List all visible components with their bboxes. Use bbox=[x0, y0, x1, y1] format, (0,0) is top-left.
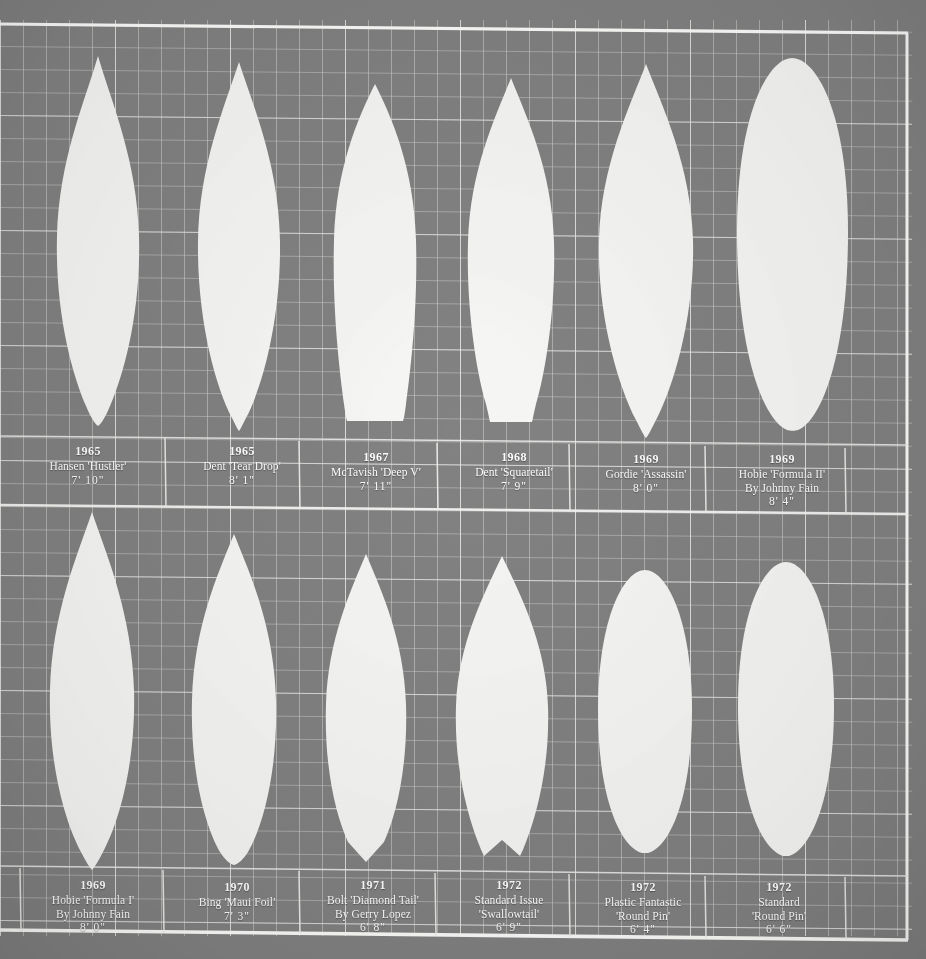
board-year: 1970 bbox=[164, 880, 310, 894]
board-length: 6' 6" bbox=[706, 923, 852, 937]
board-caption-12: 1972 Standard 'Round Pin' 6' 6" bbox=[706, 880, 852, 937]
board-shape-5[interactable] bbox=[599, 64, 693, 438]
board-year: 1969 bbox=[570, 452, 722, 466]
board-shape-8[interactable] bbox=[192, 534, 276, 865]
board-year: 1969 bbox=[20, 878, 166, 892]
board-length: 7' 11" bbox=[300, 480, 452, 494]
board-maker: By Johnny Fain bbox=[20, 908, 166, 922]
board-name: Bolt 'Diamond Tail' bbox=[300, 894, 446, 908]
board-length: 6' 8" bbox=[300, 921, 446, 935]
board-shape-7[interactable] bbox=[50, 512, 134, 870]
board-caption-4: 1968 Dent 'Squaretail' 7' 9" bbox=[438, 450, 590, 493]
board-length: 7' 3" bbox=[164, 910, 310, 924]
board-year: 1968 bbox=[438, 450, 590, 464]
board-year: 1967 bbox=[300, 450, 452, 464]
board-length: 7' 10" bbox=[12, 474, 164, 488]
board-maker: 'Swallowtail' bbox=[436, 908, 582, 922]
board-name: Hansen 'Hustler' bbox=[12, 460, 164, 474]
board-year: 1972 bbox=[436, 878, 582, 892]
board-shape-3[interactable] bbox=[334, 84, 417, 421]
board-shape-10[interactable] bbox=[456, 556, 548, 856]
board-length: 8' 1" bbox=[166, 474, 318, 488]
board-caption-3: 1967 McTavish 'Deep V' 7' 11" bbox=[300, 450, 452, 493]
board-name: Hobie 'Formula II' bbox=[706, 468, 858, 482]
board-caption-2: 1965 Dent 'Tear Drop' 8' 1" bbox=[166, 444, 318, 487]
board-shape-4[interactable] bbox=[468, 78, 554, 422]
board-shape-11[interactable] bbox=[598, 570, 692, 853]
board-length: 8' 0" bbox=[20, 921, 166, 935]
board-name: Hobie 'Formula I' bbox=[20, 894, 166, 908]
board-caption-7: 1969 Hobie 'Formula I' By Johnny Fain 8'… bbox=[20, 878, 166, 935]
board-name: Plastic Fantastic bbox=[570, 896, 716, 910]
board-year: 1965 bbox=[12, 444, 164, 458]
board-year: 1972 bbox=[570, 880, 716, 894]
board-length: 7' 9" bbox=[438, 480, 590, 494]
board-maker: 'Round Pin' bbox=[570, 910, 716, 924]
board-caption-8: 1970 Bing 'Maui Foil' 7' 3" bbox=[164, 880, 310, 923]
board-name: Dent 'Squaretail' bbox=[438, 466, 590, 480]
board-year: 1972 bbox=[706, 880, 852, 894]
board-name: Bing 'Maui Foil' bbox=[164, 896, 310, 910]
board-year: 1969 bbox=[706, 452, 858, 466]
board-caption-11: 1972 Plastic Fantastic 'Round Pin' 6' 4" bbox=[570, 880, 716, 937]
board-name: Standard Issue bbox=[436, 894, 582, 908]
board-name: McTavish 'Deep V' bbox=[300, 466, 452, 480]
board-length: 8' 0" bbox=[570, 482, 722, 496]
board-caption-9: 1971 Bolt 'Diamond Tail' By Gerry Lopez … bbox=[300, 878, 446, 935]
board-caption-5: 1969 Gordie 'Assassin' 8' 0" bbox=[570, 452, 722, 495]
board-caption-10: 1972 Standard Issue 'Swallowtail' 6' 9" bbox=[436, 878, 582, 935]
board-shape-6[interactable] bbox=[737, 58, 848, 431]
board-length: 6' 9" bbox=[436, 921, 582, 935]
board-maker: 'Round Pin' bbox=[706, 910, 852, 924]
board-maker: By Gerry Lopez bbox=[300, 908, 446, 922]
board-caption-6: 1969 Hobie 'Formula II' By Johnny Fain 8… bbox=[706, 452, 858, 509]
board-length: 8' 4" bbox=[706, 495, 858, 509]
board-shape-1[interactable] bbox=[57, 56, 139, 426]
board-name: Standard bbox=[706, 896, 852, 910]
board-shape-2[interactable] bbox=[198, 62, 280, 431]
board-name: Gordie 'Assassin' bbox=[570, 468, 722, 482]
board-shape-9[interactable] bbox=[326, 554, 406, 862]
chart-canvas: 1965 Hansen 'Hustler' 7' 10" 1965 Dent '… bbox=[0, 0, 926, 959]
board-caption-1: 1965 Hansen 'Hustler' 7' 10" bbox=[12, 444, 164, 487]
board-length: 6' 4" bbox=[570, 923, 716, 937]
board-name: Dent 'Tear Drop' bbox=[166, 460, 318, 474]
board-year: 1971 bbox=[300, 878, 446, 892]
board-maker: By Johnny Fain bbox=[706, 482, 858, 496]
board-shape-12[interactable] bbox=[738, 562, 834, 856]
board-year: 1965 bbox=[166, 444, 318, 458]
